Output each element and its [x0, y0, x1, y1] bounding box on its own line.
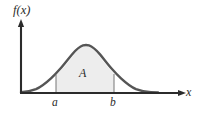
- y-axis-label: f(x): [13, 4, 30, 17]
- x-axis-label: x: [186, 86, 191, 98]
- bell-curve-figure: [0, 0, 200, 117]
- area-annotation-label: A: [79, 67, 86, 79]
- x-tick-label-a: a: [52, 97, 58, 109]
- x-axis-arrowhead: [178, 90, 186, 96]
- figure-container: f(x) x a b A: [0, 0, 200, 117]
- y-axis-arrowhead: [18, 19, 24, 27]
- x-tick-label-b: b: [110, 97, 116, 109]
